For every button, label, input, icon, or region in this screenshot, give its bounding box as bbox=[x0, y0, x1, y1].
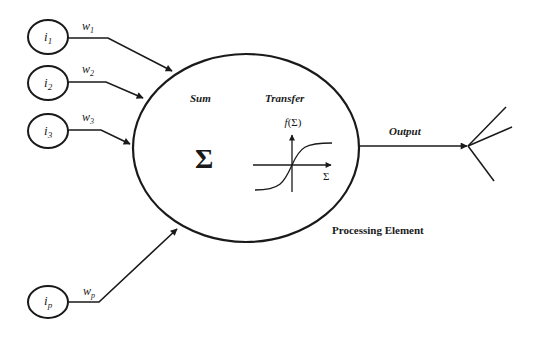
output-label: Output bbox=[389, 125, 422, 137]
sigmoid-curve bbox=[255, 143, 332, 190]
neuron-diagram: i1 i2 i3 ip w1 w2 w3 wp Sum Transfer Σ f… bbox=[0, 0, 536, 340]
transfer-function-plot: f(Σ) Σ bbox=[253, 116, 332, 192]
sum-symbol: Σ bbox=[195, 143, 213, 174]
connection-w3: w3 bbox=[68, 110, 130, 144]
output-connection: Output bbox=[359, 125, 467, 146]
transfer-axis-label: Σ bbox=[323, 170, 329, 182]
output-fan bbox=[468, 107, 512, 181]
weight-label-2: w2 bbox=[82, 62, 94, 78]
weight-label-3: w3 bbox=[82, 110, 94, 126]
weight-label-1: w1 bbox=[82, 19, 94, 35]
input-label-p: ip bbox=[44, 293, 53, 310]
input-node-3: i3 bbox=[28, 114, 68, 148]
transfer-label: Transfer bbox=[265, 92, 305, 104]
processing-element-label: Processing Element bbox=[332, 224, 424, 236]
connection-w2: w2 bbox=[68, 62, 143, 98]
input-node-p: ip bbox=[28, 286, 68, 318]
input-node-1: i1 bbox=[28, 20, 68, 54]
transfer-fn-label: f(Σ) bbox=[285, 116, 302, 129]
weight-label-p: wp bbox=[83, 284, 95, 300]
input-node-2: i2 bbox=[28, 66, 68, 100]
input-label-1: i1 bbox=[44, 29, 52, 46]
input-label-2: i2 bbox=[44, 75, 53, 92]
sum-label: Sum bbox=[190, 92, 211, 104]
processing-element-ellipse bbox=[133, 54, 359, 242]
input-label-3: i3 bbox=[44, 123, 53, 140]
connection-wp: wp bbox=[68, 229, 177, 302]
